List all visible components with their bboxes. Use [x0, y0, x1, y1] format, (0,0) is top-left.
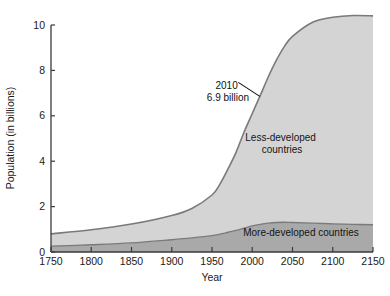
y-tick-label: 8 [39, 64, 45, 76]
x-tick-label: 2000 [241, 255, 265, 267]
chart-canvas: 0246810 17501800185019001950200020502100… [0, 0, 390, 296]
x-tick-label: 1900 [160, 255, 184, 267]
series-label-more-developed: More-developed countries [243, 227, 359, 238]
y-axis-tick-labels: 0246810 [33, 19, 45, 258]
x-tick-label: 1850 [120, 255, 144, 267]
x-tick-label: 2100 [321, 255, 345, 267]
x-tick-label: 1950 [200, 255, 224, 267]
y-tick-label: 6 [39, 109, 45, 121]
x-tick-label: 2050 [281, 255, 305, 267]
y-tick-label: 4 [39, 155, 45, 167]
x-tick-label: 2150 [361, 255, 385, 267]
x-tick-label: 1800 [80, 255, 104, 267]
x-axis-tick-labels: 175018001850190019502000205021002150 [39, 255, 385, 267]
y-tick-label: 2 [39, 200, 45, 212]
y-axis-title: Population (in billions) [4, 87, 16, 190]
x-axis-title: Year [201, 271, 223, 283]
x-tick-label: 1750 [39, 255, 63, 267]
population-chart-figure: 0246810 17501800185019001950200020502100… [0, 0, 390, 296]
y-tick-label: 10 [33, 19, 45, 31]
